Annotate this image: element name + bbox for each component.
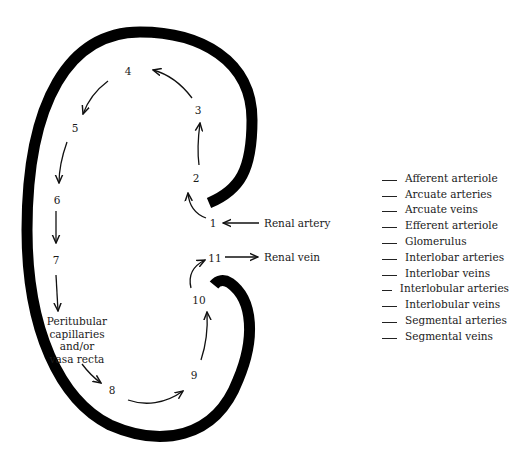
step-1-label: 1 <box>210 217 217 229</box>
arrow-5-to-6 <box>59 142 67 183</box>
step-9-label: 9 <box>191 369 198 381</box>
answer-blank[interactable] <box>382 195 397 197</box>
arrow-2-to-3 <box>198 123 200 165</box>
legend-item: Interlobar arteries <box>382 247 509 263</box>
peritubular-line-4: vasa recta <box>32 353 122 366</box>
answer-blank[interactable] <box>382 321 397 323</box>
legend-item-label: Interlobular veins <box>405 298 500 310</box>
peritubular-line-1: Peritubular <box>32 315 122 328</box>
peritubular-line-2: capillaries <box>32 328 122 341</box>
step-6-label: 6 <box>54 194 61 206</box>
legend-item-label: Arcuate veins <box>405 203 478 215</box>
legend-item-label: Glomerulus <box>405 235 467 247</box>
answer-blank[interactable] <box>382 258 397 260</box>
legend-item: Arcuate veins <box>382 200 509 216</box>
legend-item-label: Efferent arteriole <box>405 219 498 231</box>
arrow-10-to-11 <box>190 260 205 288</box>
legend-item: Segmental veins <box>382 326 509 342</box>
step-4-label: 4 <box>125 65 132 77</box>
step-11-label: 11 <box>208 252 221 264</box>
arrow-9-to-10 <box>201 312 207 360</box>
step-7-label: 7 <box>53 254 60 266</box>
legend-item-label: Afferent arteriole <box>405 172 498 184</box>
step-8-label: 8 <box>109 384 116 396</box>
legend-item: Afferent arteriole <box>382 168 509 184</box>
legend-item-label: Arcuate arteries <box>405 188 492 200</box>
peritubular-line-3: and/or <box>32 340 122 353</box>
kidney-outline-upper <box>27 32 252 436</box>
answer-blank[interactable] <box>382 305 397 307</box>
step-3-label: 3 <box>195 104 202 116</box>
arrow-3-to-4 <box>153 70 192 98</box>
answer-blank[interactable] <box>382 226 397 228</box>
legend-item: Arcuate arteries <box>382 184 509 200</box>
legend-item-label: Segmental arteries <box>405 314 507 326</box>
answer-blank[interactable] <box>382 274 397 276</box>
step-10-label: 10 <box>192 294 205 306</box>
step-5-label: 5 <box>72 122 79 134</box>
legend-item-label: Interlobar arteries <box>405 251 504 263</box>
legend-item: Efferent arteriole <box>382 215 509 231</box>
legend-item: Segmental arteries <box>382 310 509 326</box>
arrow-8-to-9 <box>128 391 183 403</box>
legend-item: Interlobular veins <box>382 294 509 310</box>
arrow-7-to-peritubular <box>56 275 58 311</box>
answer-blank[interactable] <box>382 210 397 212</box>
renal-vein-label: Renal vein <box>264 251 320 263</box>
answer-blank[interactable] <box>382 289 392 291</box>
legend-item-label: Interlobular arteries <box>400 282 509 294</box>
answer-blank[interactable] <box>382 179 397 181</box>
term-legend: Afferent arteriole Arcuate arteries Arcu… <box>382 168 509 342</box>
legend-item: Interlobular arteries <box>382 279 509 295</box>
arrow-1-to-2 <box>188 193 206 218</box>
legend-item-label: Interlobar veins <box>405 267 490 279</box>
answer-blank[interactable] <box>382 242 397 244</box>
arrow-peritubular-to-8 <box>82 364 101 383</box>
legend-item: Interlobar veins <box>382 263 509 279</box>
step-2-label: 2 <box>193 172 200 184</box>
legend-item-label: Segmental veins <box>405 330 493 342</box>
renal-artery-label: Renal artery <box>264 217 331 229</box>
legend-item: Glomerulus <box>382 231 509 247</box>
arrow-4-to-5 <box>83 81 108 114</box>
answer-blank[interactable] <box>382 337 397 339</box>
peritubular-capillaries-label: Peritubular capillaries and/or vasa rect… <box>32 315 122 365</box>
